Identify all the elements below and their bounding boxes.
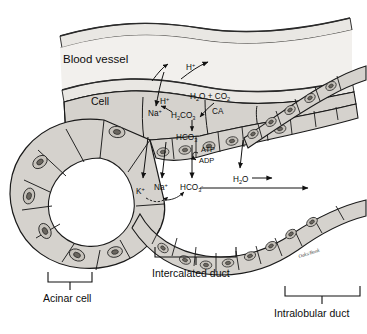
carbonic-acid-label: H2CO3	[171, 111, 195, 121]
intercalated-duct-caption: Intercalated duct	[152, 267, 230, 279]
anatomy-diagram: Blood vessel Cell	[0, 0, 367, 334]
carbonic-anhydrase-label: CA	[212, 107, 224, 116]
blood-vessel-label: Blood vessel	[63, 53, 128, 65]
figure-canvas: Blood vessel Cell	[0, 0, 367, 334]
acinus	[10, 119, 165, 270]
cell-label: Cell	[91, 95, 109, 107]
atp-label: ATP	[201, 145, 215, 154]
intralobular-duct-caption: Intralobular duct	[274, 307, 349, 319]
adp-label: ADP	[199, 156, 214, 165]
acinar-cell-caption: Acinar cell	[43, 292, 91, 304]
